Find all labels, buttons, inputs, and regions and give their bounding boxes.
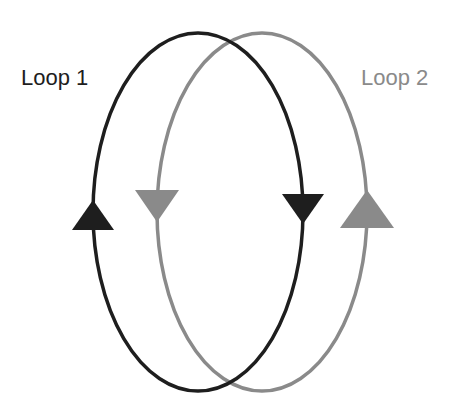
two-loop-diagram: Loop 1 Loop 2 <box>0 0 466 410</box>
loop-2-up-arrow-icon <box>340 190 394 228</box>
loop-1-up-arrow-icon <box>72 200 114 230</box>
loop-2-down-arrow-icon <box>135 190 179 222</box>
loop-2-label: Loop 2 <box>361 67 428 89</box>
loop-2-path <box>157 33 367 391</box>
loop-1-label: Loop 1 <box>21 67 88 89</box>
loops-graphic <box>0 0 466 410</box>
loop-1-path <box>93 33 303 391</box>
loop-1-down-arrow-icon <box>282 194 324 224</box>
